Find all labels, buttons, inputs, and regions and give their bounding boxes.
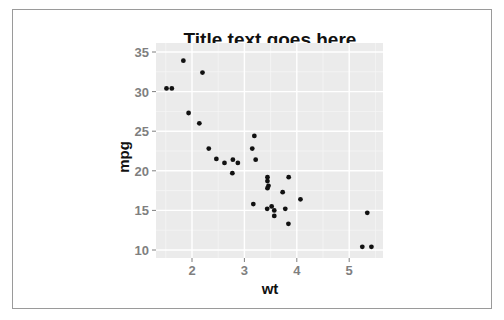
y-axis: 101520253035 bbox=[135, 45, 156, 258]
y-tick-label: 25 bbox=[135, 124, 149, 139]
x-tick-label: 3 bbox=[241, 263, 248, 278]
data-point bbox=[230, 171, 235, 176]
y-tick-label: 10 bbox=[135, 243, 149, 258]
y-tick-label: 35 bbox=[135, 45, 149, 60]
data-point bbox=[269, 204, 274, 209]
data-point bbox=[230, 157, 235, 162]
x-tick-label: 4 bbox=[293, 263, 301, 278]
data-point bbox=[251, 202, 256, 207]
x-tick-label: 5 bbox=[346, 263, 353, 278]
data-point bbox=[186, 111, 191, 116]
data-point bbox=[369, 244, 374, 249]
data-point bbox=[206, 146, 211, 151]
data-point bbox=[298, 197, 303, 202]
x-tick-label: 2 bbox=[188, 263, 195, 278]
x-axis-title: wt bbox=[261, 280, 279, 297]
y-axis-title: mpg bbox=[115, 141, 132, 173]
data-point bbox=[214, 157, 219, 162]
data-point bbox=[252, 134, 257, 139]
data-point bbox=[280, 190, 285, 195]
y-tick-label: 20 bbox=[135, 164, 149, 179]
data-point bbox=[286, 221, 291, 226]
data-point bbox=[283, 206, 288, 211]
data-point bbox=[200, 70, 205, 75]
data-point bbox=[169, 86, 174, 91]
data-point bbox=[181, 58, 186, 63]
data-point bbox=[286, 175, 291, 180]
y-tick-label: 30 bbox=[135, 85, 149, 100]
data-point bbox=[265, 206, 270, 211]
x-axis: 2345 bbox=[188, 258, 352, 278]
data-point bbox=[253, 157, 258, 162]
scatter-plot: Title text goes here 101520253035 2345 w… bbox=[0, 0, 504, 320]
data-point bbox=[265, 175, 270, 180]
data-point bbox=[197, 121, 202, 126]
data-point bbox=[164, 86, 169, 91]
data-point bbox=[360, 244, 365, 249]
data-point bbox=[235, 160, 240, 165]
data-point bbox=[272, 214, 277, 219]
data-point bbox=[365, 210, 370, 215]
data-point bbox=[222, 160, 227, 165]
y-tick-label: 15 bbox=[135, 203, 149, 218]
data-point bbox=[265, 186, 270, 191]
data-point bbox=[250, 146, 255, 151]
data-point bbox=[272, 208, 277, 213]
